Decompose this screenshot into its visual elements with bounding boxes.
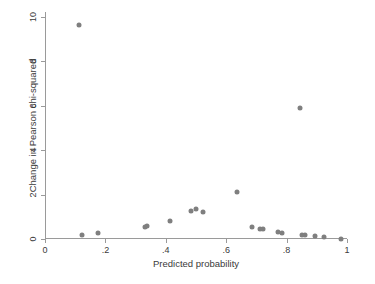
y-tick-mark <box>41 61 45 62</box>
y-tick-label: 0 <box>28 233 38 245</box>
x-tick-mark <box>226 239 227 243</box>
plot-axes-frame <box>45 12 347 239</box>
x-tick-label: .6 <box>222 245 230 256</box>
x-tick-mark <box>287 239 288 243</box>
x-tick-mark <box>45 239 46 243</box>
y-axis-title: Change in Pearson chi-squared <box>27 41 38 211</box>
y-tick-mark <box>41 106 45 107</box>
x-axis-title: Predicted probability <box>45 258 347 269</box>
y-tick-mark <box>41 17 45 18</box>
scatter-plot: 0.2.4.6.81 0246810 Predicted probability… <box>0 0 375 284</box>
x-tick-label: .2 <box>102 245 110 256</box>
y-tick-mark <box>41 150 45 151</box>
y-tick-label: 10 <box>28 11 38 23</box>
x-tick-label: .8 <box>283 245 291 256</box>
x-tick-mark <box>166 239 167 243</box>
x-tick-mark <box>105 239 106 243</box>
x-tick-label: 0 <box>42 245 47 256</box>
y-tick-mark <box>41 239 45 240</box>
y-tick-mark <box>41 195 45 196</box>
x-tick-label: .4 <box>162 245 170 256</box>
x-tick-label: 1 <box>344 245 349 256</box>
x-tick-mark <box>347 239 348 243</box>
